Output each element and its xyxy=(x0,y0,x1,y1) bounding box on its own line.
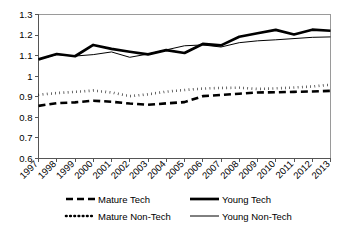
legend-label-mature-non-tech: Mature Non-Tech xyxy=(98,211,171,222)
y-tick-label: 0.8 xyxy=(19,112,32,123)
legend-label-young-non-tech: Young Non-Tech xyxy=(222,211,292,222)
legend-label-mature-tech: Mature Tech xyxy=(98,194,150,205)
y-tick-label: 1 xyxy=(27,71,32,82)
line-chart: 0.60.70.80.911.11.21.3 19971998199920002… xyxy=(0,0,346,235)
y-tick-label: 0.9 xyxy=(19,91,32,102)
chart-container: 0.60.70.80.911.11.21.3 19971998199920002… xyxy=(0,0,346,235)
y-tick-label: 1.2 xyxy=(19,29,32,40)
y-tick-label: 1.3 xyxy=(19,9,32,20)
y-tick-label: 0.7 xyxy=(19,132,32,143)
y-tick-label: 1.1 xyxy=(19,50,32,61)
legend-label-young-tech: Young Tech xyxy=(222,194,271,205)
